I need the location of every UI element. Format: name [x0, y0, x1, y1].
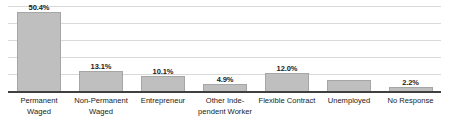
bar-group-flexible-contract[interactable]: 12.0% — [256, 6, 318, 92]
x-axis-line — [8, 91, 441, 93]
x-tick-label-line2: Waged — [8, 107, 70, 118]
bar-rect[interactable] — [141, 76, 185, 92]
x-tick-label-line1: Other Inde- — [194, 96, 256, 107]
bar-chart: 50.4% 13.1% 10.1% 4.9% 12.0% 2.2% — [0, 0, 449, 129]
bar-group-unemployed[interactable] — [318, 6, 380, 92]
x-tick-label-line2: Waged — [70, 107, 132, 118]
x-axis-tick-labels: Permanent Waged Non-Permanent Waged Entr… — [8, 96, 441, 126]
x-tick-label-unemployed: Unemployed — [318, 96, 380, 107]
bar-value-label: 4.9% — [217, 75, 234, 84]
x-tick-label-line1: Flexible Contract — [256, 96, 318, 107]
bar-group-entrepreneur[interactable]: 10.1% — [132, 6, 194, 92]
bar-group-other-independent-worker[interactable]: 4.9% — [194, 6, 256, 92]
x-tick-label-line1: Non-Permanent — [70, 96, 132, 107]
x-tick-label-flexible-contract: Flexible Contract — [256, 96, 318, 107]
bar-rect[interactable] — [17, 12, 61, 92]
x-tick-label-no-response: No Response — [380, 96, 441, 107]
bars-layer: 50.4% 13.1% 10.1% 4.9% 12.0% 2.2% — [8, 6, 441, 92]
x-tick-label-entrepreneur: Entrepreneur — [132, 96, 194, 107]
x-tick-label-line1: Unemployed — [318, 96, 380, 107]
x-tick-label-line1: Entrepreneur — [132, 96, 194, 107]
bar-value-label: 12.0% — [277, 64, 298, 73]
bar-value-label: 10.1% — [153, 67, 174, 76]
x-tick-label-line1: No Response — [380, 96, 441, 107]
bar-rect[interactable] — [265, 73, 309, 92]
x-tick-label-line1: Permanent — [8, 96, 70, 107]
bar-rect[interactable] — [79, 71, 123, 92]
bar-value-label: 2.2% — [402, 78, 419, 87]
x-tick-label-line2: pendent Worker — [194, 107, 256, 118]
x-tick-label-non-permanent-waged: Non-Permanent Waged — [70, 96, 132, 117]
bar-value-label: 13.1% — [91, 62, 112, 71]
x-tick-label-permanent-waged: Permanent Waged — [8, 96, 70, 117]
bar-group-no-response[interactable]: 2.2% — [380, 6, 441, 92]
bar-value-label: 50.4% — [29, 3, 50, 12]
x-tick-label-other-independent-worker: Other Inde- pendent Worker — [194, 96, 256, 117]
bar-group-non-permanent-waged[interactable]: 13.1% — [70, 6, 132, 92]
bar-group-permanent-waged[interactable]: 50.4% — [8, 6, 70, 92]
